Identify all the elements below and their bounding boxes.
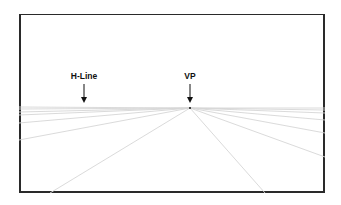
perspective-lines xyxy=(0,0,341,205)
vp-arrow-icon xyxy=(187,97,193,103)
vanishing-point-dot xyxy=(189,107,191,109)
perspective-line xyxy=(190,108,325,157)
hline-arrow-icon xyxy=(81,97,87,103)
perspective-line xyxy=(190,108,325,133)
vp-arrow-shaft xyxy=(190,84,191,98)
vp-label: VP xyxy=(184,71,195,81)
hline-label: H-Line xyxy=(71,71,97,81)
perspective-line xyxy=(190,108,265,193)
hline-arrow-shaft xyxy=(84,84,85,98)
